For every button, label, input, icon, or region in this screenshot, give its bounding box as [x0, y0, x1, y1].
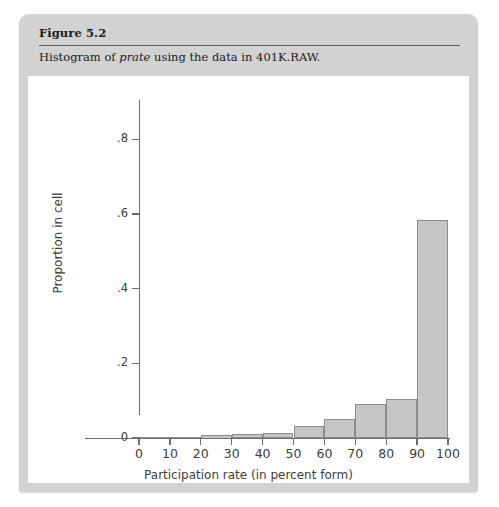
caption-prefix: Histogram of — [39, 50, 119, 64]
histogram-bar — [294, 426, 325, 438]
y-axis-title: Proportion in cell — [51, 153, 65, 333]
histogram-bar — [386, 399, 417, 438]
histogram-bar — [232, 434, 263, 438]
histogram-bar — [263, 433, 294, 438]
histogram-bar — [139, 437, 170, 438]
figure-caption: Histogram of prate using the data in 401… — [39, 50, 320, 64]
bar-group — [28, 76, 469, 483]
histogram-bar — [355, 404, 386, 438]
caption-suffix: using the data in 401K.RAW. — [150, 50, 320, 64]
histogram-bar — [201, 435, 232, 438]
histogram-bar — [417, 220, 448, 438]
histogram-bar — [324, 419, 355, 438]
figure-card: Figure 5.2 Histogram of prate using the … — [19, 14, 478, 492]
histogram-bar — [170, 437, 201, 438]
title-divider — [39, 45, 460, 46]
figure-title: Figure 5.2 — [39, 26, 458, 40]
x-axis-title: Participation rate (in percent form) — [28, 468, 469, 482]
histogram-chart: 0.2.4.6.8 0102030405060708090100 Partici… — [28, 76, 469, 483]
caption-emphasis: prate — [119, 50, 150, 64]
plot-panel: 0.2.4.6.8 0102030405060708090100 Partici… — [28, 76, 469, 483]
